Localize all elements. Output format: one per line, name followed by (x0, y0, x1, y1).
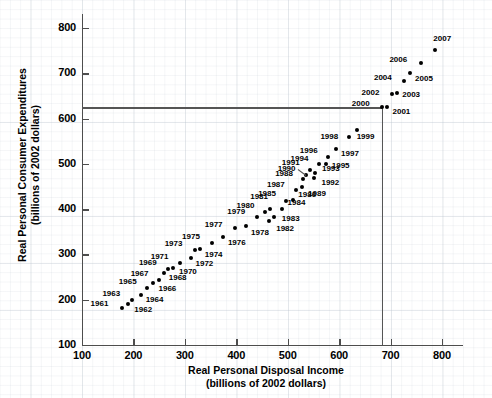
data-point[interactable] (233, 226, 237, 230)
data-point-label: 1964 (146, 296, 164, 304)
data-point-label: 1967 (131, 270, 149, 278)
data-point[interactable] (267, 219, 271, 223)
x-axis-tick (133, 339, 134, 345)
data-point[interactable] (139, 293, 143, 297)
data-point[interactable] (189, 256, 193, 260)
data-point[interactable] (171, 266, 175, 270)
data-point[interactable] (166, 267, 170, 271)
data-point[interactable] (347, 135, 351, 139)
y-axis-tick (83, 209, 89, 210)
data-point[interactable] (380, 105, 384, 109)
data-point-label: 1999 (357, 133, 375, 141)
data-point-label: 1962 (134, 306, 152, 314)
reference-line-vertical (382, 107, 383, 345)
x-axis-title-units: (billions of 2002 dollars) (206, 377, 326, 389)
y-axis-tick (83, 164, 89, 165)
data-point[interactable] (294, 188, 298, 192)
data-point[interactable] (280, 207, 284, 211)
data-point-label: 1963 (102, 290, 120, 298)
data-point[interactable] (272, 215, 276, 219)
data-point[interactable] (126, 302, 130, 306)
data-point-label: 1984 (288, 199, 306, 207)
data-point-label: 1972 (196, 260, 214, 268)
data-point[interactable] (313, 171, 317, 175)
data-point[interactable] (120, 306, 124, 310)
data-point[interactable] (334, 147, 338, 151)
data-point-label: 1970 (179, 268, 197, 276)
data-point[interactable] (317, 162, 321, 166)
data-point[interactable] (157, 278, 161, 282)
data-point-label: 1983 (282, 215, 300, 223)
data-point[interactable] (312, 176, 316, 180)
data-point[interactable] (402, 79, 406, 83)
data-point-label: 1966 (158, 285, 176, 293)
data-point-label: 1961 (91, 300, 109, 308)
data-point-label: 1995 (332, 162, 350, 170)
data-point[interactable] (284, 199, 288, 203)
data-point[interactable] (301, 177, 305, 181)
data-point[interactable] (255, 215, 259, 219)
data-point[interactable] (221, 235, 225, 239)
data-point[interactable] (385, 105, 389, 109)
y-axis-line (82, 14, 83, 346)
data-point[interactable] (198, 247, 202, 251)
data-point[interactable] (244, 224, 248, 228)
data-point-label: 2006 (389, 56, 407, 64)
x-axis-tick-label: 200 (113, 349, 153, 361)
x-axis-tick-label: 400 (216, 349, 256, 361)
x-axis-tick (82, 339, 83, 345)
data-point[interactable] (308, 168, 312, 172)
data-point-label: 2004 (374, 74, 392, 82)
x-axis-tick-label: 600 (319, 349, 359, 361)
scatter-plot: 1002003004005006007008001002003004005006… (0, 0, 492, 398)
data-point[interactable] (145, 286, 149, 290)
data-point-label: 2001 (392, 108, 410, 116)
data-point[interactable] (130, 298, 134, 302)
y-axis-tick-label: 400 (40, 202, 76, 214)
x-axis-tick (288, 339, 289, 345)
data-point[interactable] (151, 281, 155, 285)
x-axis-title: Real Personal Disposal Income (billions … (96, 364, 436, 390)
reference-line-horizontal (82, 107, 382, 108)
data-point-label: 1989 (308, 190, 326, 198)
x-axis-tick (391, 339, 392, 345)
data-point-label: 1976 (228, 239, 246, 247)
data-point[interactable] (210, 241, 214, 245)
data-point-label: 1992 (321, 179, 339, 187)
data-point[interactable] (263, 210, 267, 214)
data-point[interactable] (326, 155, 330, 159)
data-point-label: 2005 (415, 75, 433, 83)
y-axis-tick-label: 300 (40, 247, 76, 259)
data-point-label: 1996 (300, 147, 318, 155)
y-axis-title: Real Personal Consumer Expenditures (bil… (16, 20, 42, 310)
data-point[interactable] (419, 61, 423, 65)
x-axis-tick-label: 300 (165, 349, 205, 361)
data-point-label: 1997 (341, 150, 359, 158)
data-point-label: 2002 (362, 89, 380, 97)
y-axis-tick (83, 73, 89, 74)
y-axis-tick (83, 119, 89, 120)
data-point[interactable] (162, 271, 166, 275)
y-axis-title-main: Real Personal Consumer Expenditures (16, 68, 28, 262)
data-point-label: 1973 (165, 240, 183, 248)
y-axis-tick-label: 600 (40, 112, 76, 124)
y-axis-tick-label: 200 (40, 293, 76, 305)
data-point[interactable] (178, 261, 182, 265)
data-point[interactable] (395, 91, 399, 95)
data-point[interactable] (390, 92, 394, 96)
x-axis-tick (442, 339, 443, 345)
data-point[interactable] (433, 48, 437, 52)
data-point-label: 2007 (433, 35, 451, 43)
data-point-label: 1977 (205, 221, 223, 229)
data-point[interactable] (193, 248, 197, 252)
data-point[interactable] (268, 207, 272, 211)
y-axis-tick (83, 254, 89, 255)
data-point[interactable] (300, 185, 304, 189)
x-axis-title-main: Real Personal Disposal Income (188, 364, 344, 376)
data-point[interactable] (324, 162, 328, 166)
x-axis-tick (236, 339, 237, 345)
x-axis-tick (339, 339, 340, 345)
x-axis-tick-label: 700 (371, 349, 411, 361)
data-point[interactable] (408, 71, 412, 75)
data-point-label: 2000 (352, 100, 370, 108)
